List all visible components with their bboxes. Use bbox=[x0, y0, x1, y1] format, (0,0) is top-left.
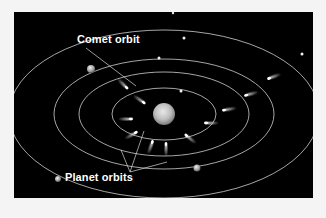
star-dot bbox=[180, 90, 183, 93]
planet-lower-right bbox=[194, 165, 201, 172]
comet bbox=[146, 140, 154, 155]
planet-orbits-label: Planet orbits bbox=[65, 171, 133, 183]
comet-orbit-label: Comet orbit bbox=[77, 33, 140, 45]
comet bbox=[118, 117, 133, 120]
comet bbox=[244, 90, 259, 97]
star-dot bbox=[172, 12, 174, 14]
orbit-illustration bbox=[14, 12, 313, 198]
planet-lower-left bbox=[55, 176, 61, 182]
comet bbox=[164, 142, 167, 157]
comet bbox=[204, 121, 219, 124]
planet-upper-left bbox=[87, 65, 95, 73]
comet bbox=[132, 94, 146, 105]
sun bbox=[153, 103, 175, 125]
solar-system-diagram: Comet orbit Planet orbits bbox=[14, 12, 313, 198]
star-dot bbox=[158, 57, 161, 60]
comet bbox=[267, 72, 282, 80]
comet bbox=[222, 106, 237, 112]
star-dot bbox=[183, 37, 186, 40]
distant-objects bbox=[158, 12, 304, 92]
star-dot bbox=[301, 53, 304, 56]
planets bbox=[55, 65, 201, 182]
